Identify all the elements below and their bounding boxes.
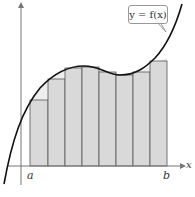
rectangle-5 xyxy=(99,72,116,166)
rectangles xyxy=(30,61,167,166)
riemann-sum-figure xyxy=(0,0,195,197)
y-axis-arrow-icon xyxy=(18,2,24,8)
rectangle-1 xyxy=(30,100,48,166)
label-a: a xyxy=(27,169,34,182)
rectangle-2 xyxy=(48,79,65,166)
rectangle-8 xyxy=(150,61,167,166)
label-b: b xyxy=(163,169,170,182)
callout-text: y = f(x) xyxy=(129,9,167,20)
rectangle-7 xyxy=(133,72,150,166)
label-x: x xyxy=(186,159,192,170)
rectangle-4 xyxy=(82,67,99,166)
rectangle-6 xyxy=(116,75,133,166)
function-label-callout: y = f(x) xyxy=(128,5,168,24)
rectangle-3 xyxy=(65,68,82,166)
